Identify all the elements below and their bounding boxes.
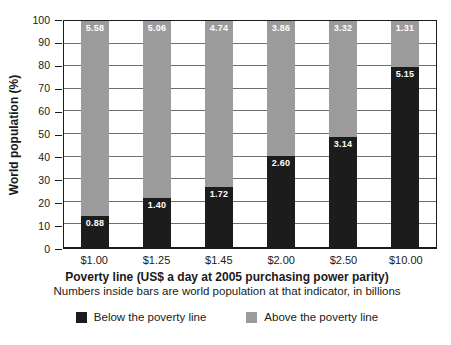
y-tick-label: 60 — [38, 106, 50, 117]
bar-segment-below: 1.40 — [143, 198, 171, 247]
legend-swatch-above-icon — [246, 312, 257, 323]
bar-group: 4.741.72 — [205, 21, 233, 247]
bar-value-label: 2.60 — [272, 158, 290, 168]
bar-segment-above: 4.74 — [205, 21, 233, 187]
plot-area: 5.580.885.061.404.741.723.862.603.323.14… — [63, 20, 437, 249]
y-tick-label: 100 — [32, 15, 50, 26]
bar-value-label: 1.72 — [210, 189, 228, 199]
bars-container: 5.580.885.061.404.741.723.862.603.323.14… — [64, 21, 436, 247]
bar-segment-above: 3.32 — [329, 21, 357, 137]
y-tick-mark — [55, 249, 62, 250]
x-axis-note: Numbers inside bars are world population… — [40, 285, 414, 297]
x-axis-title: Poverty line (US$ a day at 2005 purchasi… — [40, 270, 414, 284]
y-tick-mark — [55, 180, 62, 181]
y-tick-label: 0 — [44, 244, 50, 255]
y-tick-mark — [55, 157, 62, 158]
y-tick-mark — [55, 226, 62, 227]
y-tick-label: 80 — [38, 61, 50, 72]
x-tick-label: $2.00 — [250, 254, 312, 266]
y-tick-label: 90 — [38, 38, 50, 49]
bar-segment-above: 5.58 — [81, 21, 109, 216]
legend-label-below: Below the poverty line — [94, 311, 207, 323]
legend: Below the poverty line Above the poverty… — [40, 311, 414, 323]
bar-segment-above: 3.86 — [267, 21, 295, 156]
y-tick-label: 30 — [38, 175, 50, 186]
bar-group: 5.580.88 — [81, 21, 109, 247]
bar-value-label: 3.32 — [334, 23, 352, 33]
y-tick-mark — [55, 135, 62, 136]
legend-label-above: Above the poverty line — [264, 311, 378, 323]
bar-segment-below: 3.14 — [329, 137, 357, 247]
bar-value-label: 5.15 — [396, 69, 414, 79]
legend-swatch-below-icon — [76, 312, 87, 323]
y-tick-mark — [55, 20, 62, 21]
bar-segment-above: 5.06 — [143, 21, 171, 198]
y-tick-label: 20 — [38, 198, 50, 209]
legend-item-below: Below the poverty line — [76, 311, 207, 323]
bar-value-label: 1.31 — [396, 23, 414, 33]
x-axis-ticks: $1.00$1.25$1.45$2.00$2.50$10.00 — [63, 254, 437, 266]
bar-segment-below: 0.88 — [81, 216, 109, 247]
bar-group: 1.315.15 — [391, 21, 419, 247]
bar-segment-below: 2.60 — [267, 156, 295, 247]
bar-segment-above: 1.31 — [391, 21, 419, 67]
bar-group: 3.323.14 — [329, 21, 357, 247]
x-tick-label: $1.00 — [63, 254, 125, 266]
y-tick-label: 40 — [38, 152, 50, 163]
bar-group: 3.862.60 — [267, 21, 295, 247]
bar-group: 5.061.40 — [143, 21, 171, 247]
x-tick-label: $2.50 — [312, 254, 374, 266]
bar-segment-below: 1.72 — [205, 187, 233, 247]
y-tick-mark — [55, 66, 62, 67]
y-tick-mark — [55, 43, 62, 44]
x-tick-label: $1.45 — [188, 254, 250, 266]
bar-value-label: 5.58 — [86, 23, 104, 33]
bar-segment-below: 5.15 — [391, 67, 419, 247]
y-tick-mark — [55, 203, 62, 204]
bar-value-label: 4.74 — [210, 23, 228, 33]
y-tick-label: 10 — [38, 221, 50, 232]
bar-value-label: 0.88 — [86, 218, 104, 228]
y-axis-ticks: 0102030405060708090100 — [0, 20, 63, 249]
bar-value-label: 3.86 — [272, 23, 290, 33]
bar-value-label: 5.06 — [148, 23, 166, 33]
bar-value-label: 1.40 — [148, 200, 166, 210]
y-tick-mark — [55, 112, 62, 113]
legend-item-above: Above the poverty line — [246, 311, 378, 323]
y-tick-label: 50 — [38, 129, 50, 140]
x-tick-label: $10.00 — [375, 254, 437, 266]
bar-value-label: 3.14 — [334, 139, 352, 149]
y-tick-label: 70 — [38, 83, 50, 94]
poverty-chart-figure: World population (%) 0102030405060708090… — [0, 0, 451, 345]
y-tick-mark — [55, 89, 62, 90]
x-tick-label: $1.25 — [125, 254, 187, 266]
